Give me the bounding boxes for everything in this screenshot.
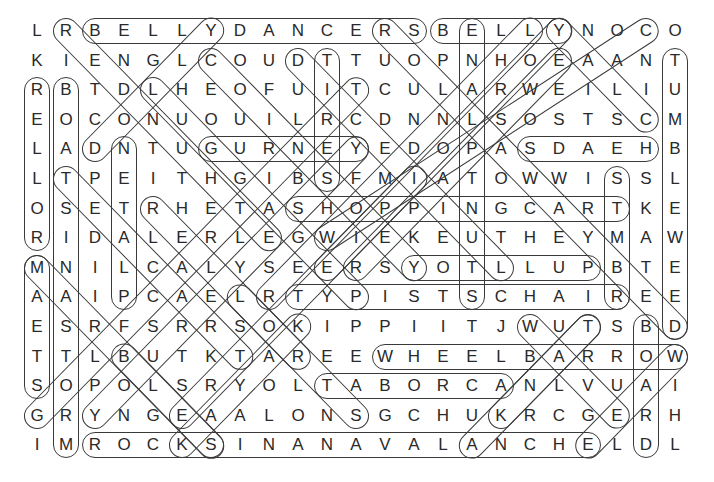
grid-letter[interactable]: T xyxy=(344,78,368,102)
grid-letter[interactable]: T xyxy=(460,167,484,191)
grid-letter[interactable]: E xyxy=(315,256,339,280)
grid-letter[interactable]: C xyxy=(373,78,397,102)
grid-letter[interactable]: R xyxy=(54,19,78,43)
grid-letter[interactable]: T xyxy=(315,374,339,398)
grid-letter[interactable]: P xyxy=(373,197,397,221)
grid-letter[interactable]: W xyxy=(663,226,687,250)
grid-letter[interactable]: U xyxy=(663,78,687,102)
grid-letter[interactable]: E xyxy=(373,137,397,161)
grid-letter[interactable]: S xyxy=(605,108,629,132)
grid-letter[interactable]: L xyxy=(286,108,310,132)
grid-letter[interactable]: A xyxy=(112,226,136,250)
grid-letter[interactable]: B xyxy=(518,345,542,369)
grid-letter[interactable]: R xyxy=(25,226,49,250)
grid-letter[interactable]: H xyxy=(634,137,658,161)
grid-letter[interactable]: O xyxy=(112,433,136,457)
grid-letter[interactable]: R xyxy=(518,404,542,428)
grid-letter[interactable]: E xyxy=(199,197,223,221)
grid-letter[interactable]: D xyxy=(112,78,136,102)
grid-letter[interactable]: A xyxy=(344,433,368,457)
grid-letter[interactable]: R xyxy=(199,226,223,250)
grid-letter[interactable]: S xyxy=(344,404,368,428)
grid-letter[interactable]: D xyxy=(402,137,426,161)
grid-letter[interactable]: O xyxy=(112,374,136,398)
grid-letter[interactable]: A xyxy=(228,404,252,428)
grid-letter[interactable]: O xyxy=(112,108,136,132)
grid-letter[interactable]: I xyxy=(576,78,600,102)
grid-letter[interactable]: S xyxy=(54,315,78,339)
grid-letter[interactable]: I xyxy=(315,315,339,339)
grid-letter[interactable]: W xyxy=(518,78,542,102)
grid-letter[interactable]: U xyxy=(141,345,165,369)
grid-letter[interactable]: T xyxy=(460,256,484,280)
grid-letter[interactable]: M xyxy=(663,108,687,132)
grid-letter[interactable]: T xyxy=(112,197,136,221)
grid-letter[interactable]: S xyxy=(605,315,629,339)
grid-letter[interactable]: E xyxy=(605,137,629,161)
grid-letter[interactable]: M xyxy=(54,433,78,457)
grid-letter[interactable]: G xyxy=(228,167,252,191)
grid-letter[interactable]: S xyxy=(518,137,542,161)
grid-letter[interactable]: E xyxy=(344,345,368,369)
grid-letter[interactable]: J xyxy=(489,315,513,339)
grid-letter[interactable]: U xyxy=(170,137,194,161)
grid-letter[interactable]: S xyxy=(605,167,629,191)
grid-letter[interactable]: E xyxy=(663,256,687,280)
grid-letter[interactable]: E xyxy=(112,19,136,43)
grid-letter[interactable]: C xyxy=(141,433,165,457)
grid-letter[interactable]: N xyxy=(141,108,165,132)
grid-letter[interactable]: N xyxy=(460,49,484,73)
grid-letter[interactable]: H xyxy=(170,78,194,102)
grid-letter[interactable]: S xyxy=(373,256,397,280)
grid-letter[interactable]: E xyxy=(547,49,571,73)
grid-letter[interactable]: U xyxy=(547,315,571,339)
grid-letter[interactable]: L xyxy=(605,78,629,102)
grid-letter[interactable]: N xyxy=(518,374,542,398)
grid-letter[interactable]: S xyxy=(199,433,223,457)
grid-letter[interactable]: I xyxy=(431,315,455,339)
grid-letter[interactable]: O xyxy=(518,49,542,73)
grid-letter[interactable]: G xyxy=(373,404,397,428)
grid-letter[interactable]: R xyxy=(170,315,194,339)
grid-letter[interactable]: L xyxy=(663,167,687,191)
grid-letter[interactable]: C xyxy=(634,19,658,43)
grid-letter[interactable]: I xyxy=(402,315,426,339)
grid-letter[interactable]: O xyxy=(228,49,252,73)
grid-letter[interactable]: E xyxy=(431,226,455,250)
grid-letter[interactable]: T xyxy=(605,197,629,221)
grid-letter[interactable]: U xyxy=(402,78,426,102)
grid-letter[interactable]: E xyxy=(547,226,571,250)
grid-letter[interactable]: R xyxy=(576,197,600,221)
grid-letter[interactable]: F xyxy=(257,78,281,102)
grid-letter[interactable]: K xyxy=(286,315,310,339)
grid-letter[interactable]: A xyxy=(547,285,571,309)
grid-letter[interactable]: T xyxy=(431,285,455,309)
grid-letter[interactable]: L xyxy=(25,137,49,161)
grid-letter[interactable]: I xyxy=(402,167,426,191)
grid-letter[interactable]: W xyxy=(518,167,542,191)
grid-letter[interactable]: L xyxy=(199,256,223,280)
grid-letter[interactable]: N xyxy=(315,433,339,457)
grid-letter[interactable]: O xyxy=(25,197,49,221)
grid-letter[interactable]: W xyxy=(315,226,339,250)
grid-letter[interactable]: E xyxy=(257,226,281,250)
grid-letter[interactable]: R xyxy=(344,256,368,280)
grid-letter[interactable]: E xyxy=(112,167,136,191)
grid-letter[interactable]: L xyxy=(170,19,194,43)
grid-letter[interactable]: N xyxy=(489,433,513,457)
grid-letter[interactable]: O xyxy=(402,49,426,73)
grid-letter[interactable]: E xyxy=(286,256,310,280)
grid-letter[interactable]: A xyxy=(170,285,194,309)
grid-letter[interactable]: D xyxy=(547,137,571,161)
grid-letter[interactable]: B xyxy=(54,78,78,102)
grid-letter[interactable]: N xyxy=(54,256,78,280)
grid-letter[interactable]: L xyxy=(460,108,484,132)
grid-letter[interactable]: P xyxy=(431,49,455,73)
grid-letter[interactable]: K xyxy=(170,433,194,457)
grid-letter[interactable]: U xyxy=(460,404,484,428)
grid-letter[interactable]: R xyxy=(83,433,107,457)
grid-letter[interactable]: T xyxy=(315,49,339,73)
grid-letter[interactable]: S xyxy=(170,374,194,398)
grid-letter[interactable]: B xyxy=(605,256,629,280)
grid-letter[interactable]: E xyxy=(431,345,455,369)
